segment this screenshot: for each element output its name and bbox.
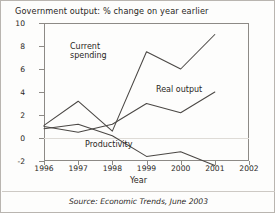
x-tick-label: 2002 — [229, 164, 269, 173]
y-tick-label: -2 — [0, 157, 25, 166]
series-label-current-spending: Current spending — [70, 43, 107, 61]
y-tick-label: 0 — [0, 134, 25, 143]
y-tick-mark — [39, 46, 44, 47]
y-tick-mark — [39, 138, 44, 139]
series-label-productivity: Productivity — [85, 141, 132, 150]
y-tick-label: 2 — [0, 111, 25, 120]
y-tick-mark — [39, 23, 44, 24]
x-tick-mark — [181, 161, 182, 165]
x-tick-mark — [215, 161, 216, 165]
x-tick-mark — [44, 161, 45, 165]
y-tick-mark — [39, 92, 44, 93]
x-tick-mark — [78, 161, 79, 165]
x-tick-mark — [249, 161, 250, 165]
source-note: Source: Economic Trends, June 2003 — [1, 197, 275, 206]
x-tick-mark — [147, 161, 148, 165]
y-tick-label: 8 — [0, 42, 25, 51]
line-real-output — [44, 92, 215, 132]
y-tick-label: 6 — [0, 65, 25, 74]
x-tick-mark — [112, 161, 113, 165]
y-tick-label: 4 — [0, 88, 25, 97]
chart-title: Government output: % change on year earl… — [15, 6, 209, 16]
source-divider — [2, 191, 275, 192]
y-tick-mark — [39, 69, 44, 70]
y-tick-label: 10 — [0, 19, 25, 28]
y-tick-mark — [39, 115, 44, 116]
chart-figure: Government output: % change on year earl… — [0, 0, 275, 213]
series-label-real-output: Real output — [156, 86, 202, 95]
axis-x-label: Year — [1, 176, 275, 185]
